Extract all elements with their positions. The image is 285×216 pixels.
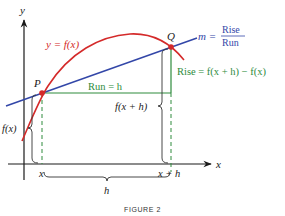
brace-fxh — [158, 49, 168, 163]
point-p-label: P — [33, 77, 41, 89]
slope-denominator: Run — [222, 37, 239, 48]
point-p — [39, 90, 45, 96]
fxh-label: f(x + h) — [115, 101, 148, 113]
x-axis-label: x — [215, 158, 221, 170]
secant-line — [6, 38, 197, 106]
fx-label: f(x) — [2, 123, 17, 135]
rise-label: Rise = f(x + h) − f(x) — [177, 66, 266, 78]
point-q-label: Q — [167, 30, 175, 42]
slope-label: m = — [198, 30, 216, 42]
tick-x-label: x — [38, 168, 44, 179]
brace-h — [44, 172, 170, 181]
slope-numerator: Rise — [222, 24, 240, 35]
secant-line-diagram: y x P Q y = f(x) m = Rise Run Rise = f(x… — [0, 0, 285, 216]
brace-fx — [28, 95, 38, 163]
y-axis-label: y — [19, 4, 25, 16]
h-label: h — [104, 185, 109, 196]
point-q — [168, 44, 174, 50]
figure-caption: FIGURE 2 — [124, 206, 161, 213]
tick-xh-label: x + h — [157, 168, 180, 179]
run-label: Run = h — [88, 81, 123, 92]
curve-label: y = f(x) — [45, 38, 79, 51]
